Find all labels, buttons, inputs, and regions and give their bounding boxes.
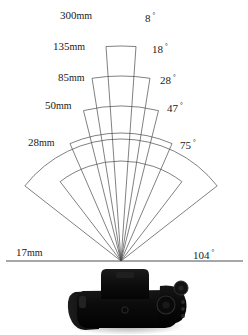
fan-arc-300mm xyxy=(106,46,136,47)
focal-length-label: 17mm xyxy=(16,247,43,258)
dslr-camera-illustration xyxy=(68,269,188,335)
angle-label: 8° xyxy=(145,10,155,24)
angle-label: 47° xyxy=(167,100,183,114)
fan-arc-28mm xyxy=(60,161,182,182)
fan-arc-135mm xyxy=(92,76,150,78)
camera-strap-lug-left xyxy=(79,296,86,308)
fan-ray-28mm-left xyxy=(60,182,121,261)
camera-button-1 xyxy=(181,300,185,304)
camera-shutter-button xyxy=(178,285,183,290)
focal-length-label: 28mm xyxy=(28,137,55,148)
fan-ray-28mm-right xyxy=(121,182,182,261)
angle-label: 75° xyxy=(180,137,196,151)
camera-mode-dial-center xyxy=(162,301,169,308)
angle-label: 104° xyxy=(193,247,214,261)
fan-arc-50mm xyxy=(70,133,172,144)
lens-angle-of-view-diagram: 300mm135mm85mm50mm28mm17mm 8°18°28°47°75… xyxy=(0,0,248,335)
fan-ray-300mm-left xyxy=(106,47,121,261)
focal-length-label: 300mm xyxy=(60,10,92,21)
diagram-canvas xyxy=(0,0,248,335)
angle-label: 18° xyxy=(152,41,168,55)
fan-arc-85mm xyxy=(84,106,159,111)
camera-button-2 xyxy=(181,307,185,311)
focal-length-label: 50mm xyxy=(45,100,72,111)
angle-label: 28° xyxy=(160,72,176,86)
focal-length-label: 135mm xyxy=(53,41,85,52)
camera-button-3 xyxy=(181,314,185,318)
focal-length-label: 85mm xyxy=(58,72,85,83)
angle-of-view-fan xyxy=(25,46,217,261)
camera-hotshoe xyxy=(116,272,134,278)
fan-ray-300mm-right xyxy=(121,47,136,261)
